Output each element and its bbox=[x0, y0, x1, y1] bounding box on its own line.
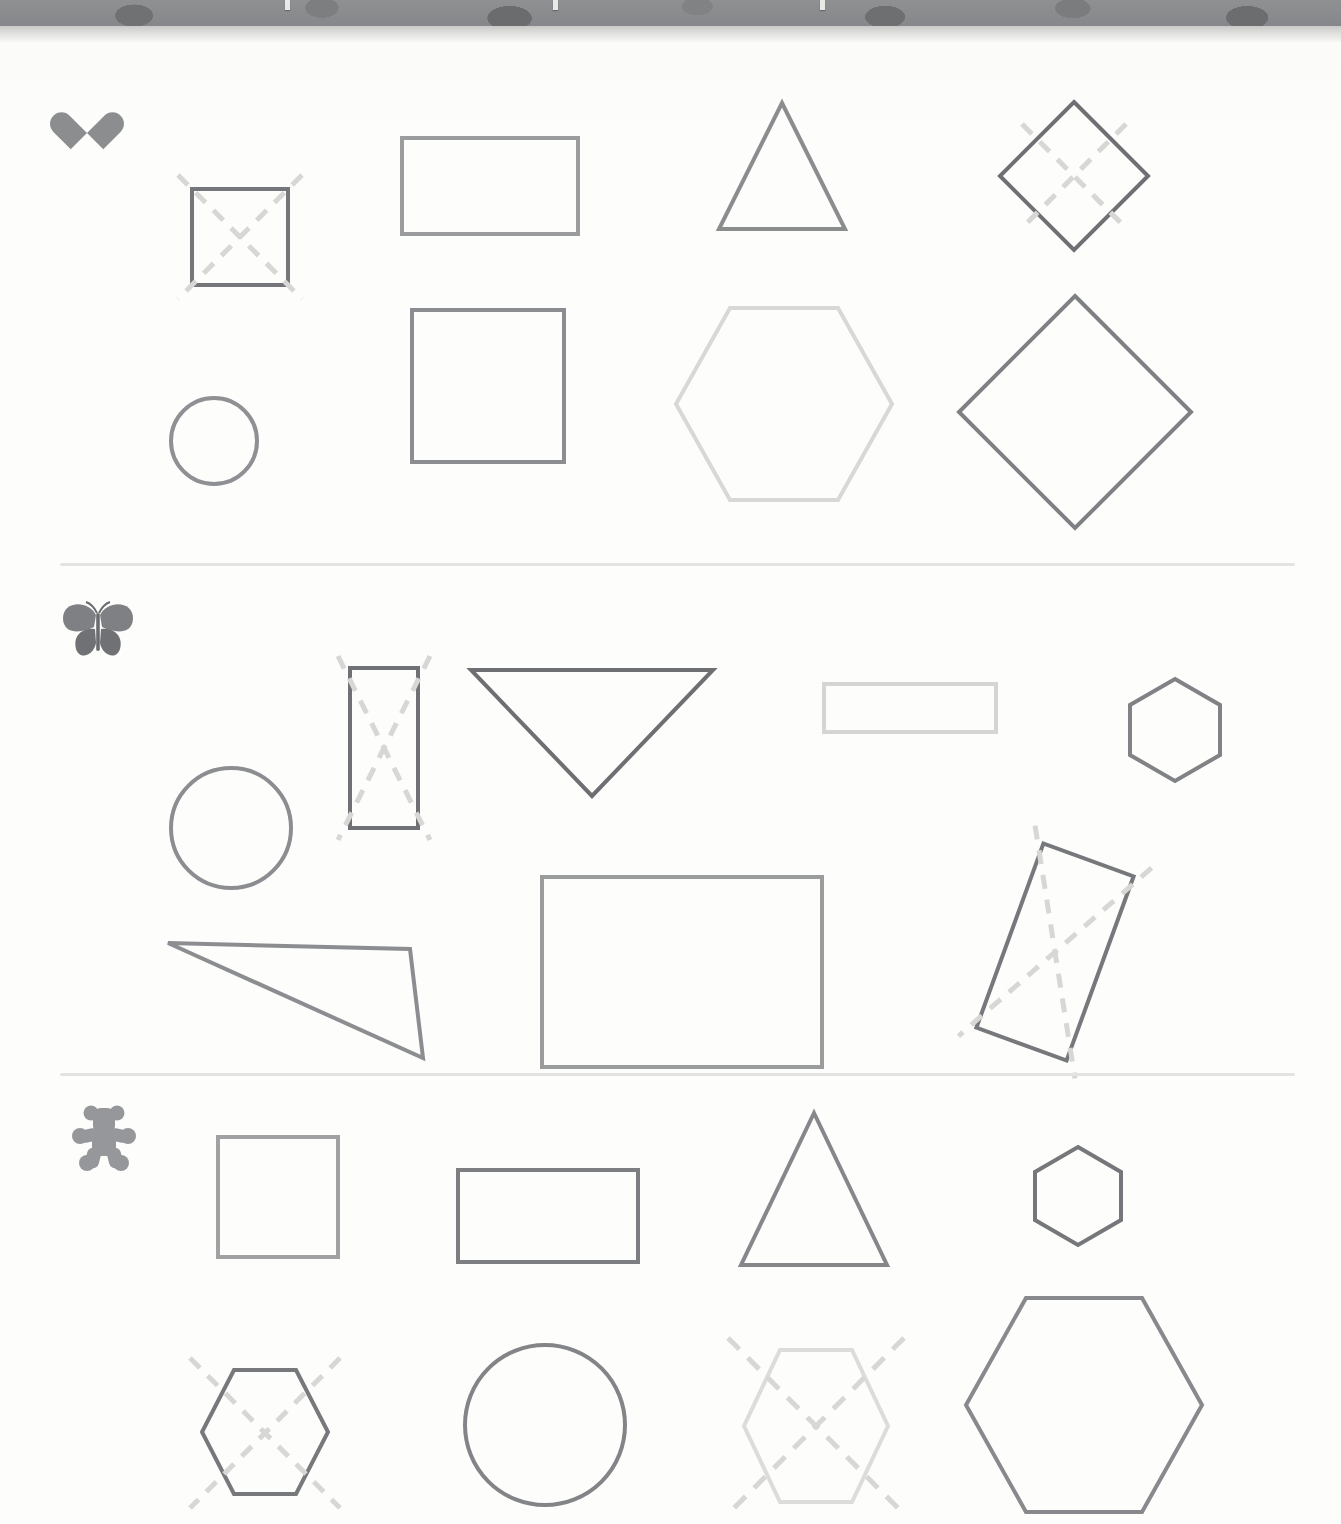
circle-small bbox=[168, 395, 260, 487]
section-divider bbox=[60, 563, 1295, 566]
circle-medium bbox=[168, 765, 294, 891]
hexagon-small bbox=[1127, 676, 1223, 784]
circle-large bbox=[462, 1342, 628, 1508]
triangle-up bbox=[716, 100, 848, 232]
rectangle-wide bbox=[400, 136, 580, 236]
rectangle-vertical-crossed bbox=[332, 650, 436, 846]
binder-clip bbox=[285, 0, 290, 10]
hexagon-crossed bbox=[160, 1332, 360, 1524]
triangle-scalene bbox=[165, 937, 427, 1062]
heart-icon bbox=[64, 97, 110, 139]
square-medium bbox=[410, 308, 566, 464]
row-icon-butterfly bbox=[58, 599, 138, 661]
worksheet-page bbox=[0, 42, 1341, 1524]
triangle-down bbox=[468, 667, 716, 799]
square-small-crossed bbox=[170, 167, 310, 307]
butterfly-icon bbox=[58, 599, 138, 661]
section-divider bbox=[60, 1073, 1295, 1076]
square-light bbox=[216, 1135, 340, 1259]
row-icon-bear bbox=[72, 1104, 136, 1172]
rectangle-thin-light bbox=[822, 682, 998, 734]
rectangle-medium bbox=[456, 1168, 640, 1264]
teddy-bear-icon bbox=[72, 1104, 136, 1172]
diamond-small-crossed bbox=[988, 90, 1160, 262]
hexagon-large-light bbox=[672, 304, 896, 504]
diamond-large bbox=[955, 292, 1195, 532]
binder-clip bbox=[820, 0, 825, 10]
hexagon-large bbox=[962, 1294, 1206, 1516]
rectangle-large bbox=[540, 875, 824, 1069]
binder-pattern-band bbox=[0, 0, 1341, 26]
triangle-up-tall bbox=[738, 1110, 890, 1268]
rectangle-tilted-crossed bbox=[935, 822, 1175, 1082]
row-icon-heart bbox=[64, 97, 110, 139]
hexagon-light-crossed bbox=[700, 1310, 932, 1524]
page-top-shadow bbox=[0, 26, 1341, 42]
binder-clip bbox=[553, 0, 558, 10]
hexagon-small-dark bbox=[1032, 1144, 1124, 1248]
